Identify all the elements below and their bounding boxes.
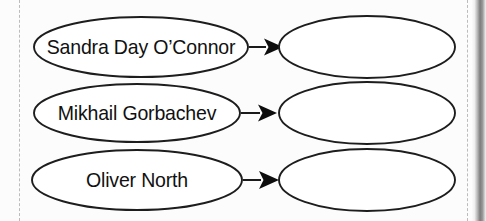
worksheet-page: Sandra Day O’Connor Mikhail Gorbachev Ol… [0,0,486,221]
concept-map-canvas [0,0,486,221]
source-oval-row-3[interactable] [32,150,242,210]
arrow-row-3 [243,171,279,189]
target-oval-row-1[interactable] [279,16,455,78]
source-oval-row-2[interactable] [34,84,240,142]
arrow-row-2 [241,105,277,122]
target-oval-row-3[interactable] [279,149,455,211]
target-oval-row-2[interactable] [279,82,455,144]
page-gutter-shadow [472,0,486,221]
source-oval-row-1[interactable] [34,17,248,77]
arrow-row-1 [249,39,283,56]
